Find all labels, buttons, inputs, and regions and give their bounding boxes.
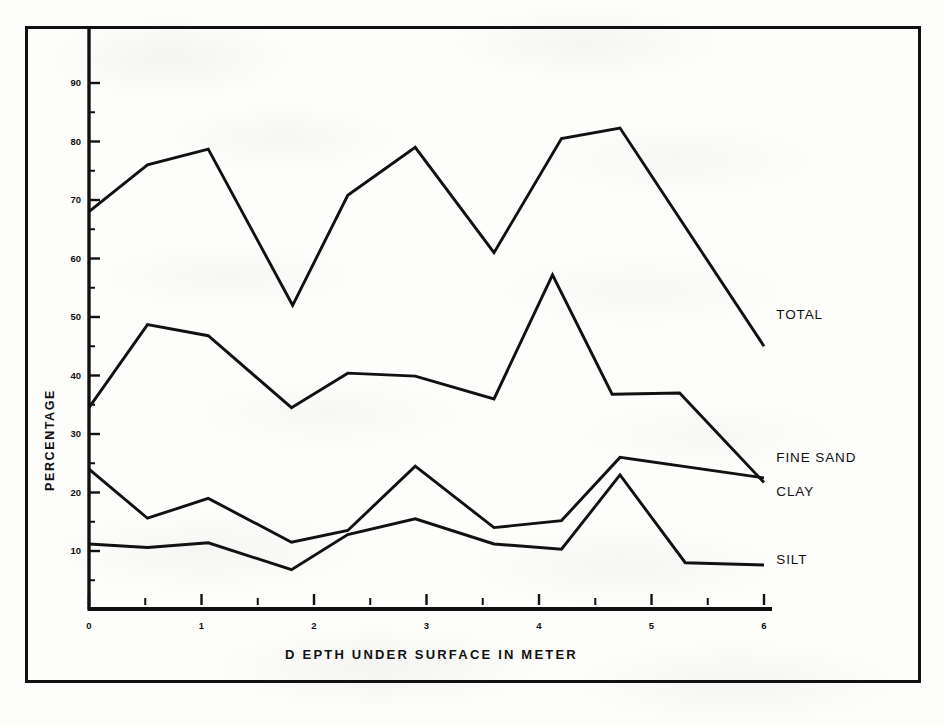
soil-composition-line-chart: 1020304050607080900123456 TOTALFINE SAND… (0, 0, 944, 726)
axis-tick-labels: 1020304050607080900123456 (70, 77, 766, 631)
y-axis-tick-label: 80 (70, 136, 81, 147)
x-axis-tick-label: 4 (536, 620, 542, 631)
x-axis-tick-label: 3 (424, 620, 429, 631)
scanned-page-background: 1020304050607080900123456 TOTALFINE SAND… (0, 0, 944, 726)
y-axis-tick-label: 10 (70, 545, 81, 556)
series-label-total: TOTAL (776, 307, 823, 322)
series-line-fine-sand (89, 275, 764, 483)
x-axis-title: D EPTH UNDER SURFACE IN METER (285, 647, 578, 662)
y-axis-tick-label: 50 (70, 311, 81, 322)
x-axis-tick-label: 1 (199, 620, 205, 631)
x-axis-tick-label: 5 (649, 620, 655, 631)
series-label-fine-sand: FINE SAND (776, 450, 856, 465)
series-line-total (89, 128, 764, 346)
series-label-clay: CLAY (776, 484, 814, 499)
data-series-lines (89, 128, 764, 570)
x-axis-tick-label: 0 (86, 620, 91, 631)
x-axis-tick-label: 6 (761, 620, 766, 631)
series-line-clay (89, 457, 764, 542)
chart-axes (88, 27, 773, 609)
y-axis-tick-label: 90 (70, 77, 81, 88)
series-end-labels: TOTALFINE SANDCLAYSILT (776, 307, 856, 567)
y-axis-tick-label: 30 (70, 428, 81, 439)
series-line-silt (89, 475, 764, 570)
y-axis-title: PERCENTAGE (43, 389, 57, 491)
x-axis-tick-label: 2 (311, 620, 316, 631)
y-axis-tick-label: 70 (70, 194, 81, 205)
y-axis-tick-label: 60 (70, 253, 81, 264)
y-axis-tick-label: 20 (70, 487, 81, 498)
series-label-silt: SILT (776, 552, 807, 567)
y-axis-tick-label: 40 (70, 370, 81, 381)
